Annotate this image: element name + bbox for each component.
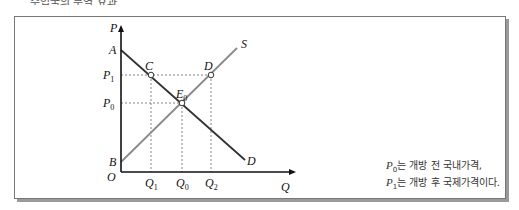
point-c-label: C	[145, 59, 154, 73]
y-axis-label: P	[109, 21, 118, 35]
point-e0-label: E0	[175, 87, 187, 103]
demand-label: D	[246, 154, 256, 168]
point-a-label: A	[108, 43, 117, 57]
point-c	[148, 72, 154, 78]
y-axis-arrow-icon	[118, 25, 124, 32]
q2-label: Q2	[205, 176, 218, 192]
p0-label: P0	[102, 96, 114, 112]
point-d-label: D	[203, 59, 213, 73]
supply-label: S	[241, 37, 247, 51]
x-axis-arrow-icon	[289, 169, 296, 175]
origin-label: O	[107, 170, 116, 184]
point-d	[208, 72, 214, 78]
x-axis-label: Q	[281, 180, 290, 194]
q0-label: Q0	[176, 176, 189, 192]
note-p1: P1는 개방 후 국제가격이다.	[386, 174, 500, 191]
p1-label: P1	[102, 68, 114, 84]
note-p0: P0는 개방 전 국내가격,	[386, 157, 482, 174]
point-b-label: B	[109, 155, 117, 169]
q1-label: Q1	[145, 176, 158, 192]
axes	[118, 25, 296, 175]
